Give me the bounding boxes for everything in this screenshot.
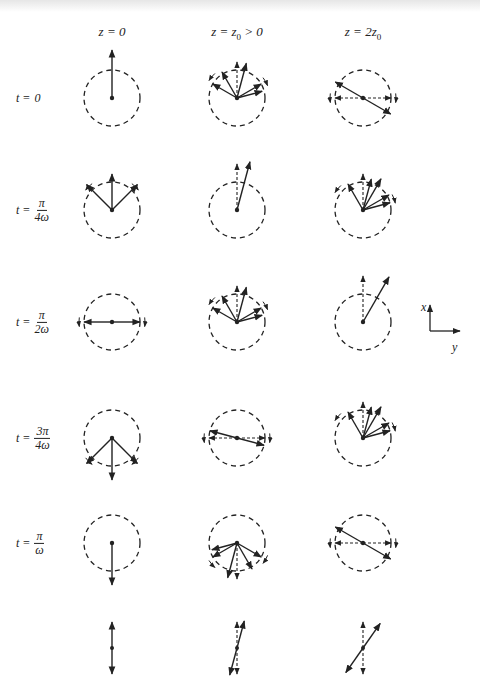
origin-dot xyxy=(361,436,365,440)
field-vector xyxy=(230,648,237,675)
origin-dot xyxy=(110,646,114,650)
origin-dot xyxy=(235,541,239,545)
origin-dot xyxy=(235,646,239,650)
field-vector xyxy=(348,184,363,210)
cell-z2-t3 xyxy=(335,402,395,466)
origin-dot xyxy=(110,541,114,545)
cell-z0-t2 xyxy=(79,294,145,350)
origin-dot xyxy=(361,96,365,100)
rotation-direction-arrow xyxy=(263,302,268,310)
rotation-direction-arrow xyxy=(209,73,215,80)
rotation-direction-arrow xyxy=(209,297,215,304)
field-vector xyxy=(237,162,250,210)
rotation-direction-arrow xyxy=(263,555,268,563)
field-vector xyxy=(363,543,391,559)
field-vector xyxy=(87,438,112,463)
cell-z1-t2 xyxy=(209,286,268,350)
summary-z1 xyxy=(230,621,244,675)
summary-z2 xyxy=(346,622,380,674)
field-vector xyxy=(212,543,237,550)
cell-z2-t2 xyxy=(335,276,391,350)
field-vector xyxy=(87,185,112,210)
origin-dot xyxy=(361,320,365,324)
axis-y-label: y xyxy=(452,340,457,355)
cell-z1-t3 xyxy=(204,410,270,466)
origin-dot xyxy=(235,436,239,440)
origin-dot xyxy=(235,320,239,324)
rotation-direction-arrow xyxy=(209,560,215,567)
field-vector xyxy=(112,185,137,210)
origin-dot xyxy=(110,208,114,212)
cell-z2-t1 xyxy=(335,174,395,238)
cell-z1-t1 xyxy=(209,162,265,238)
field-vector xyxy=(237,315,262,322)
origin-dot xyxy=(361,541,365,545)
rotation-direction-arrow xyxy=(335,413,341,420)
axis-x-label: x xyxy=(421,300,426,315)
axes-legend xyxy=(430,305,460,331)
cell-z0-t3 xyxy=(84,410,140,480)
field-vector xyxy=(335,82,363,98)
field-vector xyxy=(348,412,363,438)
cell-z0-t1 xyxy=(84,174,140,238)
field-vector xyxy=(237,91,262,98)
field-vector xyxy=(335,527,363,543)
origin-dot xyxy=(361,208,365,212)
summary-z0 xyxy=(110,622,114,674)
field-vector xyxy=(346,648,363,673)
cell-z0-t4 xyxy=(84,515,140,585)
cell-z1-t4 xyxy=(209,515,268,579)
field-vector xyxy=(363,277,389,322)
origin-dot xyxy=(361,646,365,650)
origin-dot xyxy=(235,96,239,100)
rotation-direction-arrow xyxy=(392,423,395,432)
field-vector xyxy=(237,621,244,648)
rotation-direction-arrow xyxy=(263,78,268,86)
field-vector xyxy=(237,438,264,445)
cell-z1-t0 xyxy=(209,62,268,126)
field-vector xyxy=(210,431,237,438)
field-vector xyxy=(112,438,137,463)
origin-dot xyxy=(235,208,239,212)
rotation-direction-arrow xyxy=(392,195,395,204)
field-vector xyxy=(363,98,391,114)
cell-z2-t0 xyxy=(330,70,396,126)
origin-dot xyxy=(110,320,114,324)
cell-z2-t4 xyxy=(330,515,396,571)
cell-z0-t0 xyxy=(84,50,140,126)
origin-dot xyxy=(110,436,114,440)
polarization-diagram xyxy=(0,0,480,691)
field-vector xyxy=(363,623,380,648)
origin-dot xyxy=(110,96,114,100)
rotation-direction-arrow xyxy=(335,185,341,192)
